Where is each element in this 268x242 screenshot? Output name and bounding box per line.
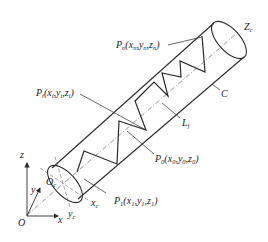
cylinder-bottom-edge [78,57,244,199]
label-c: C [221,88,228,99]
leader-lf [162,103,180,118]
label-lf: Lf [181,117,191,129]
label-z: z [19,149,24,160]
label-zc: Zc [244,21,253,33]
leader-c [212,84,220,90]
label-p1: P1(x1,y1,z1) [113,195,158,207]
label-xc: xc [90,197,98,209]
label-origin-o: O [18,217,25,228]
label-pi: Pi(xi,yi,zi) [35,87,75,99]
leader-pn [168,37,202,45]
label-p0: P0(x0,y0,z0) [154,153,199,165]
label-y: y [30,184,36,195]
leader-p0 [127,131,154,154]
yc-axis-dashed [55,157,70,207]
label-oc: Oc [46,176,56,188]
label-yc: yc [67,208,75,220]
zigzag-path [77,36,205,172]
diagram-canvas: Pn(xn,yn,zn) Pi(xi,yi,zi) P0(x0,y0,z0) P… [0,0,268,242]
cylinder-diagram: Pn(xn,yn,zn) Pi(xi,yi,zi) P0(x0,y0,z0) P… [0,0,268,242]
label-x: x [57,214,63,225]
label-pn: Pn(xn,yn,zn) [115,39,160,51]
